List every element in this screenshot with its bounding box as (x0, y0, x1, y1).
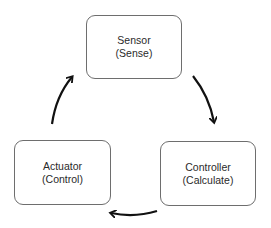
node-sensor-subtitle: (Sense) (116, 47, 153, 60)
node-actuator-title: Actuator (43, 160, 82, 173)
node-actuator: Actuator (Control) (14, 140, 111, 205)
node-controller-subtitle: (Calculate) (183, 174, 234, 187)
node-actuator-subtitle: (Control) (42, 173, 83, 186)
node-controller-title: Controller (185, 161, 231, 174)
node-controller: Controller (Calculate) (160, 141, 256, 206)
arrow-actuator-to-sensor (52, 77, 72, 124)
arrow-controller-to-actuator (111, 211, 157, 215)
node-sensor: Sensor (Sense) (86, 15, 182, 79)
node-sensor-title: Sensor (117, 34, 150, 47)
arrow-sensor-to-controller (193, 76, 214, 122)
